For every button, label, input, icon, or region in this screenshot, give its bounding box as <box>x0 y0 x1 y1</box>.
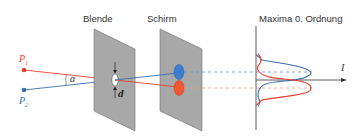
p2-subscript: 2 <box>25 102 28 108</box>
intensity-label: I <box>341 63 344 73</box>
alpha-label: α <box>70 74 75 84</box>
blue-spot <box>174 65 184 80</box>
point-p1 <box>22 68 27 73</box>
screen-plane <box>160 29 202 131</box>
red-spot <box>174 81 184 96</box>
maxima-label: Maxima 0. Ordnung <box>259 14 342 24</box>
p1-label: P1 <box>19 54 28 66</box>
red-intensity-curve <box>256 54 311 105</box>
p2-label: P2 <box>19 96 28 108</box>
intensity-arrowhead <box>341 78 347 82</box>
screen-label: Schirm <box>147 14 177 24</box>
blue-intensity-curve <box>256 55 311 106</box>
p1-subscript: 1 <box>25 60 28 66</box>
point-p2 <box>22 88 27 93</box>
diameter-label: d <box>118 88 124 99</box>
aperture-label: Blende <box>83 14 113 24</box>
